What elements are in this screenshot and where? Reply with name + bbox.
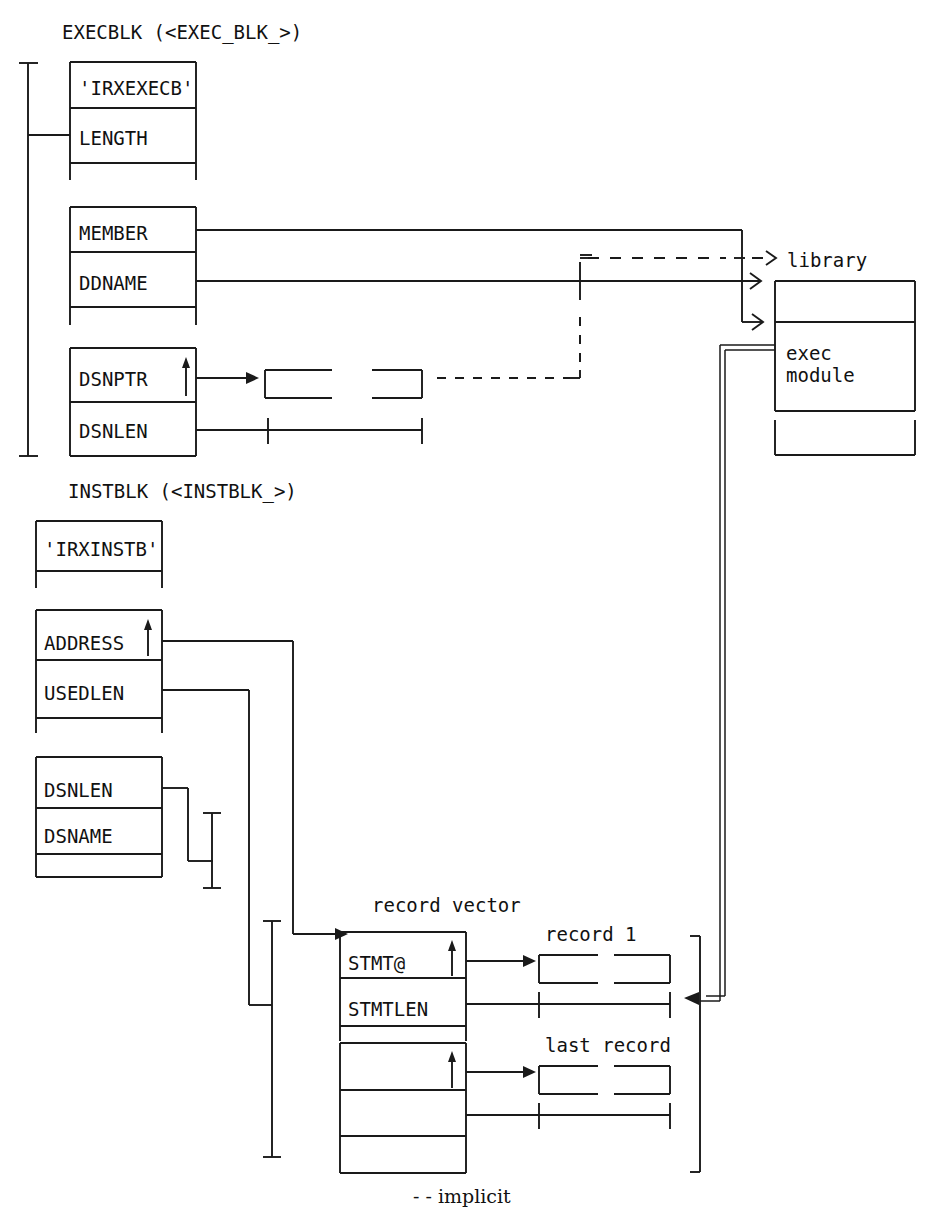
- exec-module-label-line2: module: [786, 364, 855, 386]
- instblk-dsname-label: DSNAME: [44, 825, 113, 847]
- records-right-bracket: [690, 936, 700, 1172]
- instblk-dsname-measure-bracket: [203, 813, 221, 888]
- instblk-address-label: ADDRESS: [44, 632, 124, 654]
- stmt-addr-label: STMT@: [348, 952, 405, 974]
- record-vector-label: record vector: [372, 894, 521, 916]
- library-box: [775, 281, 915, 322]
- execblk-dsnlen-label: DSNLEN: [79, 420, 148, 442]
- library-label: library: [787, 249, 867, 271]
- last-record-length-measure-line: [466, 1103, 670, 1129]
- instblk-address-pointer-glyph: [144, 619, 152, 656]
- address-to-record-vector-connector: [162, 641, 348, 940]
- execblk-eyecatcher-label: 'IRXEXECB': [79, 77, 193, 99]
- last-record-pointer-arrow: [448, 1051, 536, 1088]
- instblk-box-address-usedlen: [36, 610, 162, 733]
- member-connector-line: [196, 230, 742, 255]
- last-record-label: last record: [545, 1034, 671, 1056]
- instblk-title: INSTBLK (<INSTBLK_>): [68, 480, 297, 503]
- record-vector-box-first: [340, 932, 466, 1041]
- execblk-length-label: LENGTH: [79, 127, 148, 149]
- diagram-canvas: EXECBLK (<EXEC_BLK_>) 'IRXEXECB' LENGTH …: [0, 0, 938, 1219]
- execblk-left-measure-bracket: [19, 63, 70, 456]
- stmt-len-label: STMTLEN: [348, 998, 428, 1020]
- last-record-broken-box: [539, 1066, 670, 1094]
- ddname-connector-line: [196, 273, 761, 289]
- exec-module-to-records-double-line: [684, 345, 775, 1005]
- instblk-eyecatcher-label: 'IRXINSTB': [44, 538, 158, 560]
- instblk-dsnlen-label: DSNLEN: [44, 779, 113, 801]
- library-box-bottom: [775, 420, 915, 455]
- stmtlen-measure-line: [466, 992, 670, 1018]
- instblk-dsnlen-connector: [162, 788, 213, 861]
- execblk-member-label: MEMBER: [79, 222, 148, 244]
- execblk-title: EXECBLK (<EXEC_BLK_>): [62, 21, 302, 44]
- record-1-label: record 1: [545, 923, 637, 945]
- record-1-broken-box: [539, 955, 670, 983]
- exec-module-label-line1: exec: [786, 342, 832, 364]
- implicit-legend: - - implicit: [413, 1185, 511, 1207]
- record-vector-box-last: [340, 1043, 466, 1173]
- diagram-vector-layer: EXECBLK (<EXEC_BLK_>) 'IRXEXECB' LENGTH …: [0, 0, 938, 1219]
- usedlen-connector: [162, 690, 272, 1005]
- execblk-dsnptr-label: DSNPTR: [79, 368, 148, 390]
- instblk-box-dsnlen-dsname: [36, 757, 162, 877]
- execblk-ddname-label: DDNAME: [79, 272, 148, 294]
- dsnlen-measure-line: [196, 418, 422, 444]
- dsnptr-arrow: [182, 357, 259, 396]
- member-to-exec-module-arrow: [742, 255, 763, 330]
- usedlen-measure-bracket: [263, 921, 281, 1157]
- stmt-addr-pointer-arrow: [448, 940, 536, 976]
- instblk-usedlen-label: USEDLEN: [44, 682, 124, 704]
- dsn-buffer-broken-box: [265, 370, 422, 398]
